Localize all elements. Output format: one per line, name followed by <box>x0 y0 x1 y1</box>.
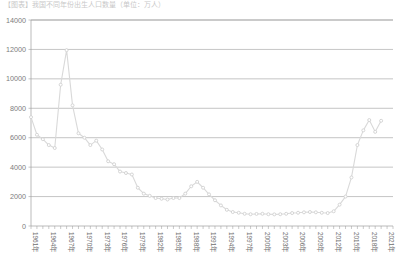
data-point-marker <box>154 197 157 200</box>
y-axis-tick-label: 10000 <box>6 74 26 83</box>
data-point-marker <box>178 197 181 200</box>
x-axis-tick-label: 2018年 <box>370 232 379 253</box>
data-point-marker <box>172 197 175 200</box>
data-point-marker <box>219 204 222 207</box>
data-point-marker <box>41 138 44 141</box>
data-point-marker <box>95 139 98 142</box>
x-axis-ticks-group <box>31 226 393 229</box>
data-point-marker <box>160 197 163 200</box>
data-point-marker <box>47 144 50 147</box>
x-axis-tick-label: 2006年 <box>298 232 307 253</box>
data-point-marker <box>65 49 68 52</box>
data-point-marker <box>107 160 110 163</box>
x-axis-tick-label: 2000年 <box>263 232 272 253</box>
data-point-marker <box>77 132 80 135</box>
data-point-marker <box>374 130 377 133</box>
data-point-marker <box>231 211 234 214</box>
data-point-marker <box>213 199 216 202</box>
data-point-marker <box>344 195 347 198</box>
x-axis-tick-label: 2015年 <box>352 232 361 253</box>
y-axis-labels-group: 02000400060008000100001200014000 <box>6 16 26 231</box>
x-axis-tick-label: 1991年 <box>209 232 218 253</box>
data-point-marker <box>136 186 139 189</box>
data-point-marker <box>101 148 104 151</box>
data-point-marker <box>297 211 300 214</box>
data-point-marker <box>119 170 122 173</box>
data-point-marker <box>237 211 240 214</box>
data-point-marker <box>184 192 187 195</box>
data-point-marker <box>302 211 305 214</box>
data-point-marker <box>202 186 205 189</box>
y-axis-tick-label: 2000 <box>10 192 26 201</box>
data-point-marker <box>285 212 288 215</box>
x-axis-tick-label: 1979年 <box>138 232 147 253</box>
data-point-marker <box>249 213 252 216</box>
birth-population-line-chart: 【图表】我国不同年份出生人口数量（单位：万人） 0200040006000800… <box>0 0 402 269</box>
data-point-marker <box>59 83 62 86</box>
data-point-marker <box>314 211 317 214</box>
x-axis-tick-label: 1967年 <box>67 232 76 253</box>
data-point-marker <box>380 119 383 122</box>
axis-lines-group <box>31 20 393 226</box>
x-axis-tick-label: 1970年 <box>85 232 94 253</box>
data-point-marker <box>83 136 86 139</box>
x-axis-tick-label: 2003年 <box>281 232 290 253</box>
data-point-marker <box>30 116 33 119</box>
x-axis-tick-label: 2021年 <box>387 232 396 253</box>
data-point-marker <box>261 212 264 215</box>
x-axis-tick-label: 1976年 <box>120 232 129 253</box>
y-axis-tick-label: 14000 <box>6 16 26 25</box>
x-axis-tick-label: 1994年 <box>227 232 236 253</box>
data-point-marker <box>308 211 311 214</box>
data-point-marker <box>368 119 371 122</box>
data-point-marker <box>291 212 294 215</box>
y-axis-tick-label: 0 <box>22 222 26 231</box>
data-point-marker <box>279 213 282 216</box>
data-point-marker <box>196 180 199 183</box>
x-axis-labels-group: 1961年1964年1967年1970年1973年1976年1979年1982年… <box>31 232 396 253</box>
data-point-marker <box>362 129 365 132</box>
x-axis-tick-label: 1988年 <box>192 232 201 253</box>
x-axis-tick-label: 1961年 <box>31 232 40 253</box>
data-point-marker <box>148 194 151 197</box>
data-point-marker <box>255 212 258 215</box>
data-point-marker <box>53 147 56 150</box>
x-axis-tick-label: 1985年 <box>174 232 183 253</box>
y-axis-tick-label: 4000 <box>10 163 26 172</box>
x-axis-tick-label: 1982年 <box>156 232 165 253</box>
data-point-marker <box>273 213 276 216</box>
data-point-marker <box>243 212 246 215</box>
data-point-marker <box>113 163 116 166</box>
data-point-marker <box>89 144 92 147</box>
data-point-marker <box>267 213 270 216</box>
x-axis-tick-label: 1973年 <box>103 232 112 253</box>
x-axis-tick-label: 1964年 <box>49 232 58 253</box>
x-axis-tick-label: 2009年 <box>316 232 325 253</box>
data-point-marker <box>350 176 353 179</box>
chart-plot-area: 02000400060008000100001200014000 1961年19… <box>0 0 402 269</box>
data-point-marker <box>338 203 341 206</box>
data-point-marker <box>225 208 228 211</box>
data-point-marker <box>320 211 323 214</box>
data-point-marker <box>124 172 127 175</box>
data-point-marker <box>332 210 335 213</box>
y-axis-tick-label: 8000 <box>10 104 26 113</box>
data-point-marker <box>190 185 193 188</box>
data-point-marker <box>356 144 359 147</box>
data-point-marker <box>208 193 211 196</box>
x-axis-tick-label: 2012年 <box>334 232 343 253</box>
y-axis-tick-label: 12000 <box>6 45 26 54</box>
data-point-marker <box>35 133 38 136</box>
data-point-marker <box>142 192 145 195</box>
data-line <box>31 50 381 214</box>
data-point-marker <box>326 212 329 215</box>
data-point-marker <box>166 198 169 201</box>
y-axis-tick-label: 6000 <box>10 133 26 142</box>
data-point-marker <box>130 173 133 176</box>
data-point-marker <box>71 104 74 107</box>
x-axis-tick-label: 1997年 <box>245 232 254 253</box>
